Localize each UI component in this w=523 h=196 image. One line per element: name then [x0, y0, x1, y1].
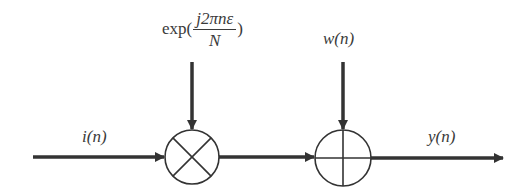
- exp-suffix: ): [237, 19, 243, 39]
- exp-numerator: j2πnε: [193, 10, 236, 30]
- output-label: y(n): [428, 128, 455, 145]
- block-diagram: [0, 0, 523, 196]
- exp-fraction: j2πnε N: [193, 10, 236, 49]
- exp-label: exp( j2πnε N ): [162, 6, 243, 52]
- multiplier-node: [165, 130, 219, 184]
- input-label: i(n): [82, 128, 107, 145]
- noise-label: w(n): [323, 30, 354, 47]
- exp-prefix: exp(: [162, 19, 192, 39]
- adder-node: [315, 130, 371, 186]
- exp-denominator: N: [209, 30, 220, 49]
